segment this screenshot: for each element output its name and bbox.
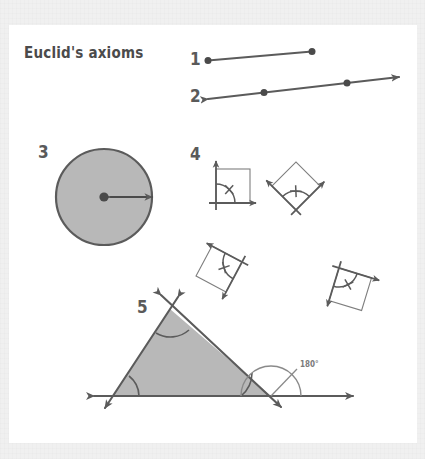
axiom-4-right-angle-b bbox=[261, 152, 329, 220]
axiom-4-right-angle-a bbox=[209, 161, 256, 210]
right-angle-ray-c2 bbox=[222, 256, 245, 299]
axiom-2-point-a bbox=[261, 89, 268, 96]
axiom-3-group: 3 bbox=[38, 142, 152, 245]
axiom-1-group: 1 bbox=[190, 48, 316, 69]
euclid-axioms-figure: Euclid's axioms 1 2 3 bbox=[9, 25, 417, 443]
figure-card: Euclid's axioms 1 2 3 bbox=[9, 25, 417, 443]
axiom-2-group: 2 bbox=[190, 77, 399, 106]
axiom-2-point-b bbox=[344, 80, 351, 87]
axiom-4-number: 4 bbox=[190, 144, 201, 164]
axiom-5-triangle-fill bbox=[113, 309, 271, 396]
page-title: Euclid's axioms bbox=[24, 44, 143, 62]
axiom-1-number: 1 bbox=[190, 49, 201, 69]
right-angle-tick-c2 bbox=[219, 262, 230, 273]
right-angle-tick-d2 bbox=[343, 279, 354, 289]
angle-sum-label: 180° bbox=[300, 360, 319, 369]
axiom-3-number: 3 bbox=[38, 142, 49, 162]
axiom-5-number: 5 bbox=[137, 297, 148, 317]
axiom-1-endpoint-left bbox=[205, 57, 212, 64]
page-background: Euclid's axioms 1 2 3 bbox=[0, 0, 425, 459]
axiom-3-center-point bbox=[99, 192, 108, 201]
axiom-1-endpoint-right bbox=[309, 48, 316, 55]
axiom-2-line bbox=[208, 77, 399, 99]
axiom-4-right-angle-c bbox=[187, 237, 252, 302]
axiom-5-group: 5 180° bbox=[94, 295, 353, 408]
axiom-1-segment bbox=[208, 52, 312, 61]
axiom-2-number: 2 bbox=[190, 86, 201, 106]
axiom-5-label-leader bbox=[271, 369, 297, 396]
axiom-4-right-angle-d bbox=[321, 259, 382, 318]
axiom-4-group: 4 bbox=[187, 144, 381, 319]
